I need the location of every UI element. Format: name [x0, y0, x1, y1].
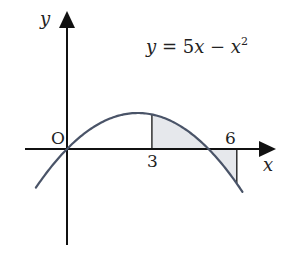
parabola-diagram: y = 5x − x2 y x O 3 6	[0, 0, 289, 275]
equation-var: x	[194, 36, 204, 57]
equation-minus: −	[204, 36, 231, 57]
equation-eq: = 5	[156, 36, 194, 57]
origin-label: O	[51, 130, 65, 147]
y-axis-arrow-icon	[59, 11, 75, 28]
equation-exponent: 2	[241, 35, 248, 48]
equation-label: y = 5x − x2	[146, 36, 248, 56]
x-axis-label: x	[263, 156, 273, 174]
equation-var2: x	[231, 36, 241, 57]
y-axis-label: y	[40, 10, 50, 28]
shaded-region-3-to-5	[152, 114, 209, 149]
x-tick-label-3: 3	[147, 153, 158, 170]
x-tick-label-6: 6	[225, 130, 236, 147]
equation-lhs: y	[146, 36, 156, 57]
